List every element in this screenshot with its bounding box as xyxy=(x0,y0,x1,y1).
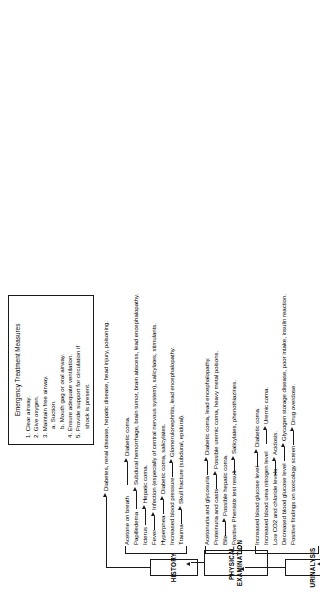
ua-finding-1: Proteinuria and casts xyxy=(212,489,220,545)
etm-item-1: 1. Clear airway. xyxy=(24,302,32,438)
connector-pe-1 xyxy=(136,491,137,509)
pe-outcome-6: Skull fracture (subdural, epidural). xyxy=(177,414,185,504)
pe-outcome-4: Diabetic coma, salicylates. xyxy=(159,424,167,494)
arrow-bc-1 xyxy=(263,426,267,430)
pe-finding-4: Hyperpnea xyxy=(159,516,167,545)
section-box-urinalysis: URINALYSIS xyxy=(285,559,315,576)
connector-ua-0 xyxy=(207,461,208,475)
arrow-bc-2 xyxy=(272,457,276,461)
etm-item-3b: b. Mouth gag or oral airway. xyxy=(58,302,66,438)
pe-finding-1: Papilledema xyxy=(132,512,140,545)
connector-bc-2 xyxy=(275,461,276,475)
pe-outcome-5: Glomerulonephritis, lead encephalopathy. xyxy=(168,347,176,457)
bracket-physical-examination xyxy=(125,546,187,554)
bc-outcome-0: Diabetic coma. xyxy=(253,407,261,447)
pe-finding-2: Icterus xyxy=(141,527,149,545)
connector-pe-0 xyxy=(127,462,128,485)
history-outcome-0: Diabetes, renal disease, hepatic disease… xyxy=(102,321,110,491)
connector-pe-5 xyxy=(172,463,173,477)
ua-outcome-3: Salicylates, phenothiazines. xyxy=(230,380,238,454)
etm-item-4: 4. Ensure adequate ventilation. xyxy=(66,302,74,438)
ua-outcome-1: Possible uremic coma, heavy metal poison… xyxy=(212,351,220,469)
arrow-pe-1 xyxy=(133,487,137,491)
connector-history-stem xyxy=(106,567,150,568)
etm-item-2: 2. Give oxygen. xyxy=(32,302,40,438)
arrow-pe-5 xyxy=(169,459,173,463)
connector-pe-3 xyxy=(154,516,155,530)
pe-finding-0: Acetone on breath xyxy=(123,496,131,545)
bc-finding-1: Increased blood urea nitrogen level xyxy=(262,452,270,545)
arrow-ua-2 xyxy=(222,518,226,522)
pe-outcome-0: Diabetic coma. xyxy=(123,416,131,456)
rotated-figure-wrapper: Emergency Treatment Measures 1. Clear ai… xyxy=(0,0,315,602)
emergency-treatment-measures-title: Emergency Treatment Measures xyxy=(13,302,22,438)
arrow-ua-into-cluster xyxy=(240,567,244,571)
etm-item-5: 5. Provide support for circulation if xyxy=(74,302,82,438)
bc-finding-2: Low CO2 and chloride levels xyxy=(271,469,279,545)
arrow-pe-6 xyxy=(178,506,182,510)
connector-ua-3 xyxy=(234,460,235,474)
bracket-blood-chemistries xyxy=(255,546,315,554)
pe-finding-6: Trauma xyxy=(177,525,185,545)
connector-bc-3 xyxy=(284,447,285,461)
ua-finding-2: Bile xyxy=(221,535,229,545)
connector-history-run xyxy=(106,497,107,568)
arrow-pe-0 xyxy=(124,458,128,462)
bracket-urinalysis xyxy=(205,546,242,554)
section-label-history: HISTORY xyxy=(170,553,178,582)
bc-outcome-4: Drug overdose. xyxy=(289,384,297,425)
arrow-bc-4 xyxy=(290,427,294,431)
arrow-ua-0 xyxy=(204,457,208,461)
bc-finding-0: Increased blood glucose level xyxy=(253,466,261,545)
connector-pe-2 xyxy=(145,509,146,525)
arrow-pe-into-cluster xyxy=(186,562,190,566)
arrow-history-outcome xyxy=(103,493,107,497)
bc-outcome-2: Acidosis. xyxy=(271,431,279,455)
connector-ua-1 xyxy=(216,475,217,489)
etm-item-3a: a. Suction. xyxy=(49,302,57,438)
ua-outcome-2: Possible hepatic coma. xyxy=(221,454,229,516)
ua-finding-3: Positive Phenistix test result xyxy=(230,471,238,545)
pe-outcome-1: Subdural hemorrhage, brain tumor, brain … xyxy=(132,294,140,485)
arrow-pe-4 xyxy=(160,496,164,500)
etm-item-3: 3. Maintain free airway. xyxy=(41,302,49,438)
arrow-bc-0 xyxy=(254,449,258,453)
arrow-ua-1 xyxy=(213,471,217,475)
connector-bc-4 xyxy=(293,431,294,445)
ua-finding-0: Acetonuria and glycosuria xyxy=(203,476,211,545)
flowchart-canvas: Emergency Treatment Measures 1. Clear ai… xyxy=(0,0,315,602)
connector-bc-0 xyxy=(257,453,258,467)
pe-finding-3: Fever xyxy=(150,530,158,545)
connector-ua-stem xyxy=(245,567,285,568)
connector-pe-stem xyxy=(191,562,204,563)
etm-item-5-cont: shock is present. xyxy=(83,302,91,438)
connector-bc-1 xyxy=(266,430,267,444)
bc-finding-3: Decreased blood glucose level xyxy=(280,463,288,545)
bc-outcome-3: Glycogen storage disease, poor intake, i… xyxy=(280,294,288,441)
connector-pe-4 xyxy=(163,500,164,514)
connector-ua-2 xyxy=(225,522,226,536)
arrow-ua-3 xyxy=(231,456,235,460)
arrow-pe-3 xyxy=(151,512,155,516)
pe-outcome-3: Infection (especially of central nervous… xyxy=(150,323,158,510)
connector-pe-6 xyxy=(181,510,182,524)
arrow-bc-3 xyxy=(281,443,285,447)
ua-outcome-0: Diabetic coma, lead encephalopathy. xyxy=(203,357,211,455)
pe-outcome-2: Hepatic coma. xyxy=(141,465,149,503)
pe-finding-5: Increased blood pressure xyxy=(168,477,176,545)
emergency-treatment-measures-box: Emergency Treatment Measures 1. Clear ai… xyxy=(8,295,94,445)
arrow-pe-2 xyxy=(142,505,146,509)
bc-outcome-1: Uremic coma. xyxy=(262,387,270,424)
bc-finding-4: Positive findings on toxicology screen xyxy=(289,446,297,545)
